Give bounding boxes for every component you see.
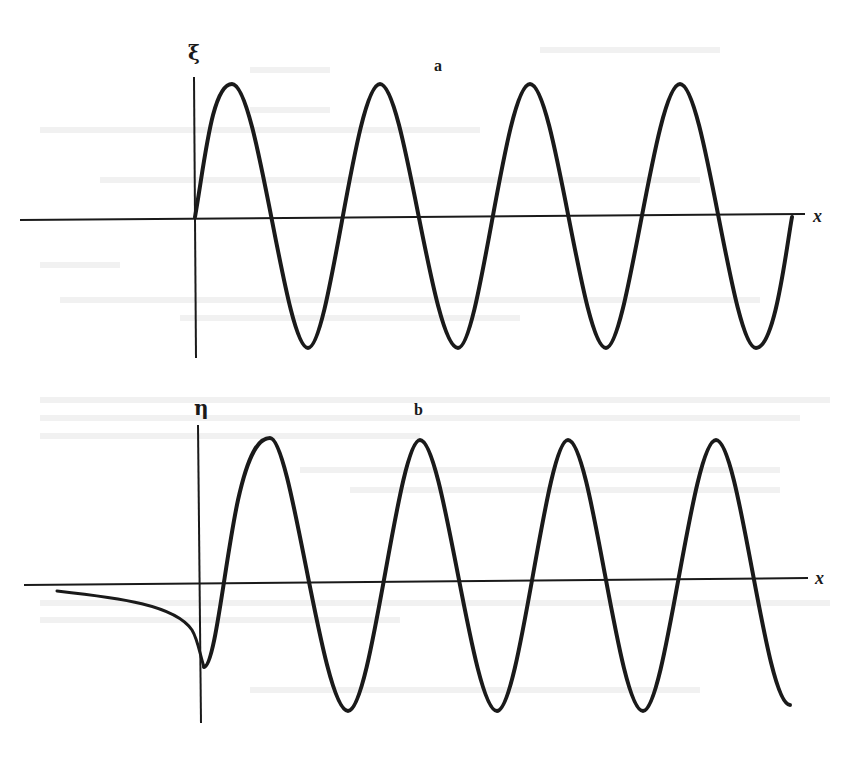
panel-b-tag: b [414, 401, 423, 418]
panel-a-tag: a [434, 57, 442, 74]
panel-a-x-axis [20, 214, 805, 220]
panel-b-waveform [204, 438, 790, 711]
panel-b-x-label: x [814, 568, 824, 588]
bleed-through-lines [40, 50, 830, 690]
panel-a-waveform [195, 84, 792, 348]
panel-a-x-label: x [812, 206, 822, 226]
panel-b-x-axis [24, 578, 808, 585]
figure: ξ a x η b x [0, 0, 862, 757]
panel-a-y-label: ξ [188, 41, 200, 65]
panel-b-y-axis [198, 425, 201, 723]
panel-b-y-label: η [194, 396, 209, 420]
